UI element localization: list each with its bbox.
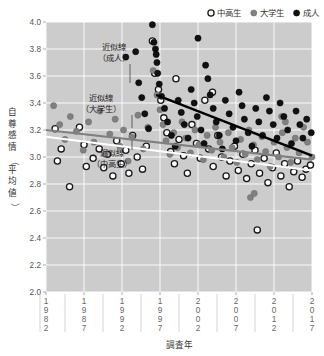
data-point (142, 111, 148, 117)
data-point (135, 112, 141, 118)
data-point (256, 170, 262, 176)
data-point (194, 113, 200, 119)
x-tick-label-char: 2 (196, 324, 201, 333)
data-point (278, 173, 284, 179)
data-point (308, 130, 314, 136)
y-tick-label: 2.4 (30, 234, 42, 243)
data-point (57, 122, 63, 128)
x-tick-label-char: 1 (120, 297, 125, 306)
x-tick-label-char: 9 (120, 315, 125, 324)
x-tick-label-char: 9 (158, 306, 163, 315)
data-point (235, 167, 241, 173)
legend-item-1: 大学生 (251, 8, 284, 18)
data-point (176, 136, 182, 142)
annotation-label-line2: （中高生） (92, 159, 132, 169)
y-tick-label: 3.4 (30, 99, 42, 108)
data-point (300, 135, 306, 141)
data-point (207, 92, 213, 98)
x-tick-label-char: 9 (44, 306, 49, 315)
data-point (233, 138, 239, 144)
data-point (110, 173, 116, 179)
data-point (154, 59, 160, 65)
legend-marker-icon (251, 10, 257, 16)
data-point (205, 76, 211, 82)
data-point (185, 135, 191, 141)
data-point (277, 100, 283, 106)
x-tick-label-char: 8 (44, 315, 49, 324)
x-tick-label-char: 7 (310, 324, 315, 333)
data-point (178, 109, 184, 115)
data-point (204, 132, 210, 138)
data-point (222, 97, 228, 103)
x-tick-label-char: 7 (82, 324, 87, 333)
data-point (85, 119, 91, 125)
data-point (139, 95, 145, 101)
y-tick-label: 2.0 (30, 288, 42, 297)
x-tick-label-char: 8 (82, 315, 87, 324)
annotation-label-line1: 近似線 (100, 148, 124, 158)
data-point (66, 184, 72, 190)
y-axis-title-char: 尊 (8, 118, 17, 129)
data-point (198, 127, 204, 133)
data-point (253, 105, 259, 111)
data-point (146, 126, 152, 132)
x-axis-ticks: 19821987199219972002200720122017 (40, 292, 315, 333)
data-point (217, 139, 223, 145)
x-tick-label-char: 2 (120, 324, 125, 333)
data-point (216, 132, 222, 138)
y-tick-label: 3.8 (30, 45, 42, 54)
x-tick-label-char: 1 (158, 297, 163, 306)
x-tick-label-char: 1 (44, 297, 49, 306)
x-tick-label-char: 2 (234, 297, 239, 306)
data-point (249, 143, 255, 149)
data-point (136, 80, 142, 86)
data-point (126, 170, 132, 176)
data-point (153, 51, 159, 57)
data-point (80, 147, 86, 153)
data-point (307, 162, 313, 168)
x-tick-label-char: 2 (272, 297, 277, 306)
legend-label: 成人 (303, 8, 320, 18)
annotation-label-line2: （大学生） (81, 104, 121, 114)
x-tick-label-char: 0 (196, 315, 201, 324)
data-point (161, 105, 167, 111)
data-point (120, 127, 126, 133)
x-tick-label-char: 9 (82, 306, 87, 315)
x-tick-label-char: 1 (82, 297, 87, 306)
data-point (58, 146, 64, 152)
data-point (223, 173, 229, 179)
y-tick-label: 2.8 (30, 180, 42, 189)
data-point (192, 127, 198, 133)
y-axis-title-char: 値 (8, 187, 17, 198)
x-tick-label-char: 7 (158, 324, 163, 333)
data-point (304, 116, 310, 122)
data-point (173, 76, 179, 82)
x-tick-label-char: 2 (44, 324, 49, 333)
legend-item-0: 中高生 (208, 8, 241, 18)
y-tick-label: 3.6 (30, 72, 42, 81)
data-point (151, 39, 157, 45)
chart-legend: 中高生大学生成人 (208, 8, 320, 18)
x-tick-label-char: 2 (272, 324, 277, 333)
x-tick-label-char: 0 (310, 306, 315, 315)
x-tick-label-char: 0 (196, 306, 201, 315)
x-tick-label-char: 2 (196, 297, 201, 306)
data-point (299, 174, 305, 180)
data-point (270, 122, 276, 128)
annotation-label-line1: 近似線 (89, 93, 113, 103)
data-point (210, 105, 216, 111)
data-point (236, 89, 242, 95)
data-point (281, 113, 287, 119)
data-point (156, 81, 162, 87)
legend-item-2: 成人 (294, 8, 320, 18)
y-axis-title-char: ） (10, 203, 20, 212)
data-point (297, 122, 303, 128)
x-tick-label-char: 1 (310, 315, 315, 324)
y-tick-label: 3.0 (30, 153, 42, 162)
data-point (291, 169, 297, 175)
data-point (293, 108, 299, 114)
x-tick-label-char: 7 (234, 324, 239, 333)
data-point (191, 100, 197, 106)
data-point (265, 180, 271, 186)
data-point (251, 190, 257, 196)
